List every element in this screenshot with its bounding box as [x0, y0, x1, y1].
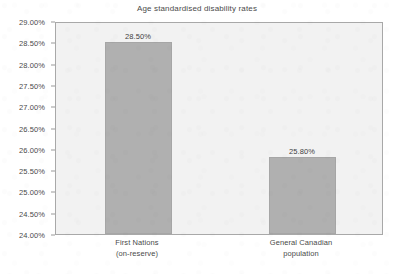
x-axis-category-line: population [219, 249, 383, 260]
plot-inner: 28.50%25.80% [56, 23, 382, 234]
x-axis-category-line: (on-reserve) [55, 249, 219, 260]
bar-value-label: 25.80% [272, 147, 332, 156]
x-axis-category-line: First Nations [55, 238, 219, 249]
chart-title: Age standardised disability rates [0, 4, 394, 13]
bar-value-label: 28.50% [108, 32, 168, 41]
y-axis-tick-label: 25.50% [19, 167, 45, 176]
bar [105, 42, 172, 234]
y-axis-tick-label: 26.50% [19, 124, 45, 133]
x-axis-category-label: First Nations(on-reserve) [55, 238, 219, 259]
y-axis-tick-label: 27.50% [19, 81, 45, 90]
y-axis-tick-label: 28.50% [19, 39, 45, 48]
y-axis-tick-label: 26.00% [19, 145, 45, 154]
y-axis: 29.00%28.50%28.00%27.50%27.00%26.50%26.0… [0, 22, 51, 235]
plot-area: 28.50%25.80% [55, 22, 383, 235]
x-axis-category-line: General Canadian [219, 238, 383, 249]
bar [269, 157, 336, 234]
bar-chart: Age standardised disability rates 29.00%… [0, 0, 394, 274]
y-axis-tick-label: 29.00% [19, 18, 45, 27]
y-axis-tick-label: 24.00% [19, 231, 45, 240]
x-axis-category-label: General Canadianpopulation [219, 238, 383, 259]
y-axis-tick-label: 25.00% [19, 188, 45, 197]
y-axis-tick-label: 28.00% [19, 60, 45, 69]
y-axis-tick-label: 27.00% [19, 103, 45, 112]
y-axis-tick-label: 24.50% [19, 209, 45, 218]
x-axis: First Nations(on-reserve)General Canadia… [55, 238, 383, 270]
